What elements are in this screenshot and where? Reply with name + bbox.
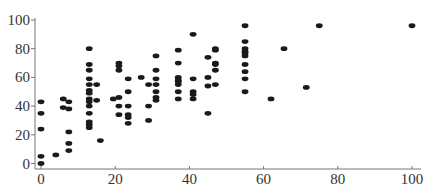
data-point <box>212 62 219 67</box>
data-point <box>38 99 45 104</box>
data-point <box>153 68 160 73</box>
data-point <box>65 107 72 112</box>
data-point <box>86 111 93 116</box>
data-point <box>153 98 160 103</box>
data-point <box>190 32 197 37</box>
data-point <box>125 121 132 126</box>
data-point <box>190 92 197 97</box>
data-point <box>138 75 145 80</box>
data-point <box>242 39 249 44</box>
y-tick-label: 0 <box>23 156 31 172</box>
data-point <box>116 112 123 117</box>
data-point <box>86 62 93 67</box>
data-point <box>116 95 123 100</box>
data-point <box>212 82 219 87</box>
data-point <box>242 69 249 74</box>
data-point <box>175 97 182 102</box>
data-point <box>242 62 249 67</box>
y-tick-label: 80 <box>15 41 30 57</box>
scatter-chart: 020406080100 020406080100 <box>0 0 433 195</box>
data-point <box>145 118 152 123</box>
data-point <box>86 46 93 51</box>
data-point <box>153 53 160 58</box>
data-point <box>205 111 212 116</box>
data-point <box>242 76 249 81</box>
data-point <box>86 125 93 130</box>
data-point <box>38 111 45 116</box>
data-point <box>145 104 152 109</box>
data-point <box>153 89 160 94</box>
data-point <box>242 53 249 58</box>
data-point <box>125 115 132 120</box>
data-point <box>65 141 72 146</box>
data-point <box>153 82 160 87</box>
data-point <box>205 55 212 60</box>
data-point <box>205 75 212 80</box>
data-point <box>281 46 288 51</box>
data-point <box>86 99 93 104</box>
data-point <box>153 76 160 81</box>
data-point <box>86 91 93 96</box>
data-point <box>93 98 100 103</box>
data-point <box>205 84 212 89</box>
x-tick-label: 100 <box>401 171 424 187</box>
data-point <box>175 61 182 66</box>
data-point <box>190 76 197 81</box>
data-point <box>212 68 219 73</box>
data-point <box>86 68 93 73</box>
x-tick-label: 40 <box>182 171 197 187</box>
data-point <box>190 97 197 102</box>
y-tick-label: 40 <box>15 98 30 114</box>
y-tick-label: 20 <box>15 127 30 143</box>
data-point <box>175 89 182 94</box>
y-tick-label: 60 <box>15 69 30 85</box>
x-tick-label: 80 <box>330 171 345 187</box>
y-axis-ticks: 020406080100 <box>8 12 36 172</box>
x-tick-label: 20 <box>108 171 123 187</box>
data-points <box>38 23 416 166</box>
data-point <box>125 76 132 81</box>
data-point <box>242 23 249 28</box>
data-point <box>86 82 93 87</box>
data-point <box>316 23 323 28</box>
data-point <box>38 127 45 132</box>
axes: 020406080100 020406080100 <box>8 12 424 187</box>
data-point <box>116 64 123 69</box>
x-tick-label: 60 <box>256 171 271 187</box>
y-tick-label: 100 <box>8 12 31 28</box>
data-point <box>86 104 93 109</box>
data-point <box>175 48 182 53</box>
data-point <box>93 82 100 87</box>
data-point <box>212 48 219 53</box>
data-point <box>65 148 72 153</box>
data-point <box>97 138 104 143</box>
data-point <box>116 104 123 109</box>
data-point <box>242 89 249 94</box>
data-point <box>38 161 45 166</box>
data-point <box>116 68 123 73</box>
data-point <box>175 82 182 87</box>
data-point <box>65 130 72 135</box>
data-point <box>86 76 93 81</box>
data-point <box>303 85 310 90</box>
data-point <box>268 97 275 102</box>
data-point <box>145 82 152 87</box>
data-point <box>409 23 416 28</box>
data-point <box>60 97 67 102</box>
data-point <box>52 152 59 157</box>
x-tick-label: 0 <box>37 171 45 187</box>
data-point <box>38 154 45 159</box>
data-point <box>125 89 132 94</box>
data-point <box>65 99 72 104</box>
data-point <box>125 104 132 109</box>
